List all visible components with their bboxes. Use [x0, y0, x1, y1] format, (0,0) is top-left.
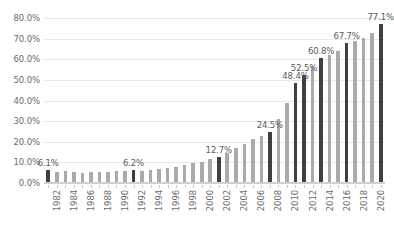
x-axis-tick-label-1998: 1998	[188, 190, 198, 211]
x-axis-tick-mark	[108, 185, 109, 188]
x-axis-tick-label-2012: 2012	[308, 190, 318, 211]
x-axis-tick-mark	[176, 185, 177, 188]
x-axis-tick-label-1992: 1992	[137, 190, 147, 211]
x-axis-tick-mark	[381, 185, 382, 188]
x-axis-tick-label-2018: 2018	[359, 190, 369, 211]
x-axis-tick-mark	[313, 185, 314, 188]
bar-2007	[260, 136, 264, 183]
x-axis-tick-mark	[185, 185, 186, 188]
bar-2014	[319, 58, 323, 183]
x-axis-tick-label-2016: 2016	[342, 190, 352, 211]
x-axis-tick-mark	[57, 185, 58, 188]
bar-1999	[191, 163, 195, 183]
bar-1996	[166, 168, 170, 183]
x-axis-tick-mark	[355, 185, 356, 188]
x-axis-tick-mark	[65, 185, 66, 188]
x-axis-tick-mark	[91, 185, 92, 188]
bar-2008	[268, 132, 272, 183]
bar-1997	[174, 167, 178, 183]
bar-2000	[200, 162, 204, 183]
x-axis-tick-mark	[321, 185, 322, 188]
x-axis-tick-label-2006: 2006	[256, 190, 266, 211]
bar-2018	[353, 41, 357, 183]
bar-2012	[302, 75, 306, 183]
bar-2006	[251, 139, 255, 183]
y-axis-tick-label: 30.0%	[13, 116, 40, 126]
x-axis-tick-label-1996: 1996	[171, 190, 181, 211]
bar-series	[44, 18, 385, 183]
bar-2002	[217, 157, 221, 183]
x-axis-tick-mark	[295, 185, 296, 188]
bar-2011	[294, 83, 298, 183]
x-axis-tick-mark	[338, 185, 339, 188]
x-axis-tick-mark	[227, 185, 228, 188]
x-axis-tick-mark	[330, 185, 331, 188]
x-axis-tick-label-1982: 1982	[52, 190, 62, 211]
x-axis-tick-mark	[202, 185, 203, 188]
y-axis-tick-label: 10.0%	[13, 157, 40, 167]
bar-2010	[285, 103, 289, 183]
x-axis-tick-label-2008: 2008	[273, 190, 283, 211]
x-axis-tick-label-1984: 1984	[69, 190, 79, 211]
y-axis-tick-label: 80.0%	[13, 13, 40, 23]
bar-2016	[336, 51, 340, 183]
x-axis-tick-mark	[253, 185, 254, 188]
bar-2019	[362, 38, 366, 183]
x-axis-tick-mark	[151, 185, 152, 188]
x-axis-line	[44, 182, 385, 183]
x-axis-tick-label-1988: 1988	[103, 190, 113, 211]
x-axis-tick-label-1986: 1986	[86, 190, 96, 211]
y-axis-tick-label: 0.0%	[19, 178, 40, 188]
bar-2020	[370, 33, 374, 183]
bar-2005	[243, 144, 247, 183]
x-axis-tick-label-2020: 2020	[376, 190, 386, 211]
bar-2004	[234, 148, 238, 183]
x-axis-tick-mark	[244, 185, 245, 188]
x-axis-tick-mark	[116, 185, 117, 188]
bar-1998	[183, 165, 187, 183]
x-axis-tick-mark	[142, 185, 143, 188]
bar-2015	[328, 55, 332, 183]
bar-2013	[311, 66, 315, 183]
y-axis-tick-label: 60.0%	[13, 54, 40, 64]
x-axis-tick-mark	[261, 185, 262, 188]
plot-area	[44, 18, 385, 183]
x-axis-tick-label-2004: 2004	[239, 190, 249, 211]
y-axis-tick-label: 50.0%	[13, 75, 40, 85]
x-axis-tick-label-2010: 2010	[290, 190, 300, 211]
x-axis-tick-mark	[236, 185, 237, 188]
x-axis-tick-mark	[210, 185, 211, 188]
x-axis-tick-mark	[125, 185, 126, 188]
x-axis-tick-mark	[134, 185, 135, 188]
x-axis-tick-mark	[287, 185, 288, 188]
x-axis-tick-mark	[82, 185, 83, 188]
x-axis-tick-mark	[270, 185, 271, 188]
gridline	[44, 183, 385, 184]
x-axis-tick-mark	[278, 185, 279, 188]
x-axis-tick-mark	[372, 185, 373, 188]
y-axis: 0.0%10.0%20.0%30.0%40.0%50.0%60.0%70.0%8…	[0, 18, 44, 183]
x-axis-tick-label-2002: 2002	[222, 190, 232, 211]
x-axis-tick-mark	[219, 185, 220, 188]
bar-2003	[225, 153, 229, 183]
x-axis-tick-label-1990: 1990	[120, 190, 130, 211]
bar-2001	[208, 159, 212, 183]
x-axis-tick-mark	[99, 185, 100, 188]
bar-2021	[379, 24, 383, 183]
y-axis-tick-label: 20.0%	[13, 137, 40, 147]
y-axis-tick-label: 70.0%	[13, 34, 40, 44]
x-axis-tick-label-2014: 2014	[325, 190, 335, 211]
y-axis-tick-label: 40.0%	[13, 96, 40, 106]
x-axis: 1982198419861988199019921994199619982000…	[44, 185, 385, 237]
x-axis-tick-mark	[159, 185, 160, 188]
x-axis-tick-mark	[304, 185, 305, 188]
x-axis-tick-mark	[74, 185, 75, 188]
x-axis-tick-mark	[364, 185, 365, 188]
bar-2017	[345, 43, 349, 183]
x-axis-tick-mark	[168, 185, 169, 188]
bar-2009	[277, 119, 281, 183]
x-axis-tick-mark	[193, 185, 194, 188]
x-axis-tick-label-2000: 2000	[205, 190, 215, 211]
bar-1995	[157, 169, 161, 183]
